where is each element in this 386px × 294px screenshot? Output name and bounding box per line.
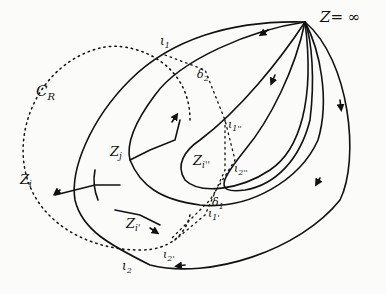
contour-diagram: Z= ∞ CR Zi Zj Zi' Zi'' ι1 ι2 ι1' ι2' ι1'… xyxy=(0,0,386,294)
label-l2: ι2 xyxy=(122,259,132,275)
label-zj: Zj xyxy=(109,144,122,161)
label-zi-double-prime: Zi'' xyxy=(192,153,210,170)
label-d1: δ1 xyxy=(212,196,224,211)
branch-zi xyxy=(55,185,120,195)
label-z-infinity: Z= ∞ xyxy=(319,8,360,26)
label-zi: Zi xyxy=(19,172,32,189)
label-l2-double-prime: ι2'' xyxy=(234,162,248,177)
label-d2: δ2 xyxy=(197,68,209,83)
circle-cr xyxy=(23,46,190,250)
dotted-d1 xyxy=(175,120,225,240)
label-l1: ι1 xyxy=(160,34,170,50)
label-l1-double-prime: ι1'' xyxy=(228,118,242,133)
label-c-r: CR xyxy=(36,82,55,102)
label-l2-prime: ι2' xyxy=(163,248,175,263)
label-zi-prime: Zi' xyxy=(125,216,140,233)
branch-zj xyxy=(130,120,180,160)
